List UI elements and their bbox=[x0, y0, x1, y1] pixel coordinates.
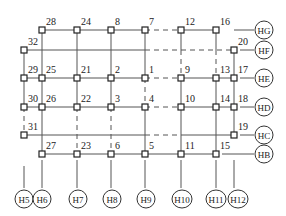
node-label: 11 bbox=[185, 140, 195, 151]
axis-marker-hd: HD bbox=[255, 98, 273, 116]
node-label: 9 bbox=[185, 64, 190, 75]
axis-marker-h9: H9 bbox=[137, 190, 155, 208]
node-square-icon bbox=[142, 104, 148, 110]
node-square-icon bbox=[142, 27, 148, 33]
node-label: 25 bbox=[46, 64, 56, 75]
structural-grid-diagram: 2824871216322029252121913173026223410141… bbox=[0, 0, 286, 216]
node-label: 20 bbox=[238, 36, 248, 47]
axis-label: HF bbox=[258, 46, 270, 56]
node-square-icon bbox=[178, 104, 184, 110]
axis-marker-h6: H6 bbox=[33, 190, 51, 208]
node-label: 21 bbox=[81, 64, 91, 75]
node-label: 16 bbox=[220, 16, 230, 27]
axis-label: H7 bbox=[73, 195, 84, 205]
node-label: 7 bbox=[149, 16, 154, 27]
axis-label: H6 bbox=[37, 195, 48, 205]
axis-label: HE bbox=[258, 74, 270, 84]
axis-marker-hc: HC bbox=[255, 126, 273, 144]
node-square-icon bbox=[108, 27, 114, 33]
axis-label: H9 bbox=[141, 195, 152, 205]
grid-node: 1 bbox=[142, 64, 154, 81]
axis-label: H5 bbox=[19, 195, 30, 205]
node-label: 27 bbox=[46, 140, 56, 151]
axis-label: HD bbox=[258, 103, 271, 113]
node-square-icon bbox=[142, 75, 148, 81]
node-square-icon bbox=[21, 104, 27, 110]
node-square-icon bbox=[213, 75, 219, 81]
node-label: 3 bbox=[115, 93, 120, 104]
node-square-icon bbox=[231, 47, 237, 53]
axis-label: H8 bbox=[107, 195, 118, 205]
node-square-icon bbox=[178, 75, 184, 81]
node-label: 12 bbox=[185, 16, 195, 27]
node-label: 10 bbox=[185, 93, 195, 104]
node-square-icon bbox=[108, 104, 114, 110]
axis-marker-hf: HF bbox=[255, 41, 273, 59]
node-square-icon bbox=[213, 151, 219, 157]
node-label: 8 bbox=[115, 16, 120, 27]
node-label: 6 bbox=[115, 140, 120, 151]
grid-node: 4 bbox=[142, 93, 154, 110]
node-square-icon bbox=[39, 27, 45, 33]
node-square-icon bbox=[178, 27, 184, 33]
node-square-icon bbox=[74, 104, 80, 110]
node-square-icon bbox=[21, 47, 27, 53]
node-square-icon bbox=[231, 104, 237, 110]
axis-label: HB bbox=[258, 150, 271, 160]
grid-nodes: 2824871216322029252121913173026223410141… bbox=[21, 16, 248, 157]
node-square-icon bbox=[142, 151, 148, 157]
node-label: 2 bbox=[115, 64, 120, 75]
node-label: 29 bbox=[28, 64, 38, 75]
axis-label: HG bbox=[258, 26, 271, 36]
node-label: 4 bbox=[149, 93, 154, 104]
axis-marker-h12: H12 bbox=[228, 190, 248, 208]
node-label: 32 bbox=[28, 36, 38, 47]
node-label: 30 bbox=[28, 93, 38, 104]
node-label: 1 bbox=[149, 64, 154, 75]
axis-marker-he: HE bbox=[255, 69, 273, 87]
node-square-icon bbox=[39, 151, 45, 157]
node-label: 18 bbox=[238, 93, 248, 104]
node-square-icon bbox=[108, 151, 114, 157]
node-square-icon bbox=[39, 104, 45, 110]
node-square-icon bbox=[213, 104, 219, 110]
node-square-icon bbox=[231, 75, 237, 81]
node-square-icon bbox=[108, 75, 114, 81]
node-label: 13 bbox=[220, 64, 230, 75]
node-square-icon bbox=[231, 132, 237, 138]
node-square-icon bbox=[74, 27, 80, 33]
node-square-icon bbox=[21, 132, 27, 138]
node-square-icon bbox=[74, 75, 80, 81]
node-square-icon bbox=[213, 27, 219, 33]
node-square-icon bbox=[178, 151, 184, 157]
node-label: 5 bbox=[149, 140, 154, 151]
axis-marker-hb: HB bbox=[255, 145, 273, 163]
axis-label: H10 bbox=[174, 195, 190, 205]
axis-label: H12 bbox=[230, 195, 246, 205]
bottom-axis-labels: H5H6H7H8H9H10H11H12 bbox=[15, 190, 248, 208]
node-square-icon bbox=[21, 75, 27, 81]
node-label: 22 bbox=[81, 93, 91, 104]
node-square-icon bbox=[39, 75, 45, 81]
node-label: 23 bbox=[81, 140, 91, 151]
node-label: 19 bbox=[238, 121, 248, 132]
axis-marker-hg: HG bbox=[255, 21, 273, 39]
node-label: 26 bbox=[46, 93, 56, 104]
axis-label: H11 bbox=[208, 195, 223, 205]
right-axis-labels: HGHFHEHDHCHB bbox=[255, 21, 273, 163]
axis-marker-h5: H5 bbox=[15, 190, 33, 208]
axis-marker-h8: H8 bbox=[103, 190, 121, 208]
node-label: 17 bbox=[238, 64, 248, 75]
node-square-icon bbox=[74, 151, 80, 157]
axis-label: HC bbox=[258, 131, 271, 141]
node-label: 15 bbox=[220, 140, 230, 151]
grid-node: 16 bbox=[213, 16, 230, 33]
node-label: 28 bbox=[46, 16, 56, 27]
axis-marker-h7: H7 bbox=[69, 190, 87, 208]
node-label: 14 bbox=[220, 93, 230, 104]
node-label: 24 bbox=[81, 16, 91, 27]
axis-marker-h11: H11 bbox=[206, 190, 226, 208]
node-label: 31 bbox=[28, 121, 38, 132]
grid-node: 7 bbox=[142, 16, 154, 33]
axis-marker-h10: H10 bbox=[172, 190, 192, 208]
